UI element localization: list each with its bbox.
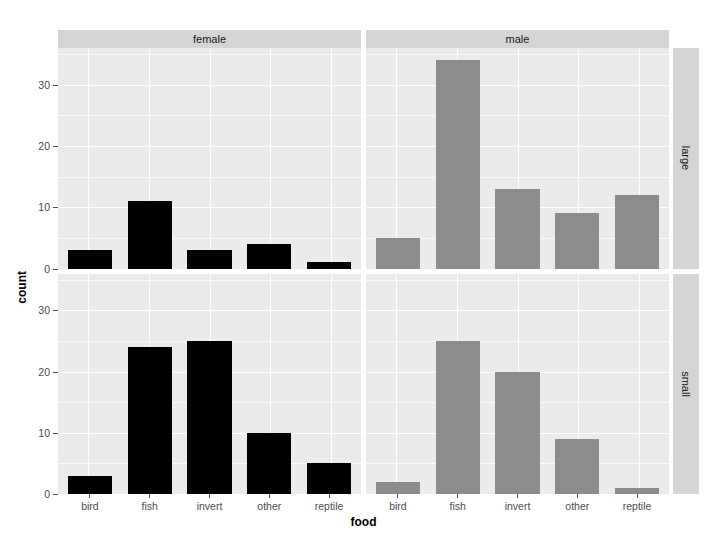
bar-male-large-bird[interactable] <box>376 238 420 269</box>
y-tick-label: 0 <box>44 488 50 500</box>
bar-male-large-invert[interactable] <box>495 189 539 269</box>
facet-panels <box>58 48 669 494</box>
x-tick-label: fish <box>142 500 158 512</box>
x-tick-other: other <box>547 494 607 514</box>
x-axis: birdfishinvertotherreptile birdfishinver… <box>58 494 669 514</box>
facet-strip-male: male <box>366 30 669 48</box>
bar-female-large-invert[interactable] <box>187 250 231 268</box>
bar-slot-invert <box>488 48 548 269</box>
bar-slot-reptile <box>607 48 667 269</box>
x-axis-ticks-female: birdfishinvertotherreptile <box>58 494 361 514</box>
bar-male-small-reptile[interactable] <box>615 488 659 494</box>
x-tick-reptile: reptile <box>299 494 359 514</box>
x-tick-label: reptile <box>315 500 344 512</box>
y-tick-20: 20 <box>38 140 58 152</box>
x-tick-mark <box>269 494 270 498</box>
bar-female-large-bird[interactable] <box>68 250 112 268</box>
panel-female-large <box>58 48 361 269</box>
x-tick-mark <box>209 494 210 498</box>
x-tick-reptile: reptile <box>607 494 667 514</box>
bar-slot-fish <box>428 274 488 495</box>
x-tick-mark <box>457 494 458 498</box>
facet-strip-top-row: female male <box>58 30 669 48</box>
x-tick-mark <box>517 494 518 498</box>
bar-female-small-invert[interactable] <box>187 341 231 494</box>
bar-slot-bird <box>368 274 428 495</box>
bar-male-small-invert[interactable] <box>495 372 539 495</box>
bar-male-small-bird[interactable] <box>376 482 420 494</box>
bar-male-large-other[interactable] <box>555 213 599 268</box>
y-tick-label: 10 <box>38 427 50 439</box>
y-tick-30: 30 <box>38 79 58 91</box>
x-tick-label: invert <box>197 500 223 512</box>
y-tick-mark <box>53 494 58 495</box>
x-tick-label: other <box>257 500 281 512</box>
bar-male-large-reptile[interactable] <box>615 195 659 268</box>
x-tick-mark <box>637 494 638 498</box>
bar-male-small-fish[interactable] <box>436 341 480 494</box>
bar-slot-invert <box>488 274 548 495</box>
bar-slot-bird <box>60 48 120 269</box>
bar-female-large-other[interactable] <box>247 244 291 269</box>
x-tick-label: fish <box>450 500 466 512</box>
facet-strip-large: large <box>673 48 699 269</box>
bar-group <box>366 48 669 269</box>
x-tick-mark <box>329 494 330 498</box>
chart-figure: female male count 0102030 0102030 large <box>0 0 705 543</box>
bar-group <box>58 48 361 269</box>
bar-slot-other <box>547 274 607 495</box>
panel-male-large <box>366 48 669 269</box>
y-axis: count 0102030 0102030 <box>22 48 58 494</box>
y-tick-20: 20 <box>38 366 58 378</box>
bar-slot-invert <box>180 48 240 269</box>
bar-female-large-fish[interactable] <box>128 201 172 268</box>
y-tick-label: 20 <box>38 366 50 378</box>
x-tick-mark <box>577 494 578 498</box>
bar-male-small-other[interactable] <box>555 439 599 494</box>
y-tick-10: 10 <box>38 427 58 439</box>
bar-slot-other <box>547 48 607 269</box>
facet-strip-small-label: small <box>680 371 692 397</box>
y-tick-mark <box>53 269 58 270</box>
bar-female-small-reptile[interactable] <box>307 463 351 494</box>
bar-female-small-bird[interactable] <box>68 476 112 494</box>
x-tick-other: other <box>239 494 299 514</box>
bar-female-small-fish[interactable] <box>128 347 172 494</box>
y-axis-ticks-large: 0102030 <box>22 48 58 269</box>
x-tick-bird: bird <box>60 494 120 514</box>
x-tick-mark <box>397 494 398 498</box>
y-tick-0: 0 <box>44 488 58 500</box>
y-tick-label: 30 <box>38 304 50 316</box>
x-tick-invert: invert <box>180 494 240 514</box>
facet-strip-female-label: female <box>193 33 226 45</box>
x-tick-label: bird <box>81 500 99 512</box>
bar-slot-bird <box>60 274 120 495</box>
bar-slot-other <box>239 274 299 495</box>
bar-female-large-reptile[interactable] <box>307 262 351 268</box>
panel-male-small <box>366 274 669 495</box>
x-tick-invert: invert <box>488 494 548 514</box>
x-axis-title: food <box>58 514 669 530</box>
bar-female-small-other[interactable] <box>247 433 291 494</box>
y-axis-ticks-small: 0102030 <box>22 274 58 495</box>
y-tick-30: 30 <box>38 304 58 316</box>
x-tick-fish: fish <box>120 494 180 514</box>
facet-strip-male-label: male <box>506 33 530 45</box>
bar-male-large-fish[interactable] <box>436 60 480 268</box>
facet-strip-right-col: large small <box>673 48 683 494</box>
bar-slot-other <box>239 48 299 269</box>
x-tick-mark <box>149 494 150 498</box>
facet-strip-small: small <box>673 274 699 495</box>
plot-area: female male count 0102030 0102030 large <box>22 30 683 530</box>
facet-strip-large-label: large <box>680 146 692 170</box>
bar-slot-fish <box>120 274 180 495</box>
bar-slot-reptile <box>299 274 359 495</box>
x-tick-bird: bird <box>368 494 428 514</box>
bar-group <box>58 274 361 495</box>
bar-slot-bird <box>368 48 428 269</box>
bar-slot-reptile <box>299 48 359 269</box>
y-tick-label: 30 <box>38 79 50 91</box>
x-tick-label: invert <box>505 500 531 512</box>
y-tick-10: 10 <box>38 201 58 213</box>
x-tick-label: other <box>565 500 589 512</box>
